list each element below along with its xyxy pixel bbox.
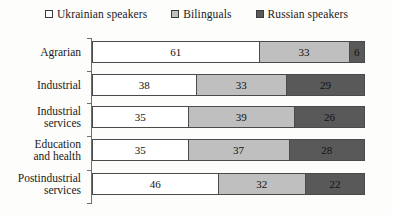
bar-industrial-services: 35 39 26 <box>92 106 365 128</box>
category-label-line1: Industrial <box>0 79 81 92</box>
stacked-bar-chart: Ukrainian speakers Bilinguals Russian sp… <box>0 0 393 215</box>
bar-segment-ukrainian: 61 <box>92 41 259 63</box>
legend-label-bilinguals: Bilinguals <box>183 8 231 20</box>
legend-swatch-bilinguals-icon <box>171 10 179 18</box>
bar-segment-russian: 22 <box>305 173 365 195</box>
category-label-industrial: Industrial <box>0 79 86 92</box>
bar-rows: Agrarian Industrial Industrial services <box>0 33 393 211</box>
bar-segment-bilinguals: 32 <box>218 173 305 195</box>
category-label-education-and-health: Education and health <box>0 138 86 163</box>
bar-segment-russian: 28 <box>289 139 365 161</box>
bar-segment-ukrainian: 38 <box>92 74 196 96</box>
bar-segment-russian: 26 <box>294 106 365 128</box>
legend-item-ukrainian-speakers: Ukrainian speakers <box>45 8 147 20</box>
bar-segment-bilinguals: 39 <box>188 106 294 128</box>
legend-swatch-ukrainian-icon <box>45 10 53 18</box>
legend-label-russian: Russian speakers <box>268 8 349 20</box>
bar-postindustrial-services: 46 32 22 <box>92 173 365 195</box>
category-label-line2: and health <box>0 150 81 163</box>
category-label-line2: services <box>0 184 81 197</box>
category-label-postindustrial-services: Postindustrial services <box>0 172 86 197</box>
bar-segment-ukrainian: 35 <box>92 106 188 128</box>
legend-item-bilinguals: Bilinguals <box>171 8 231 20</box>
bar-segment-russian: 29 <box>286 74 365 96</box>
bar-education-and-health: 35 37 28 <box>92 139 365 161</box>
bar-segment-russian: 6 <box>349 41 365 63</box>
category-label-line1: Agrarian <box>0 46 81 59</box>
chart-legend: Ukrainian speakers Bilinguals Russian sp… <box>0 8 393 20</box>
bar-segment-bilinguals: 37 <box>188 139 289 161</box>
legend-label-ukrainian: Ukrainian speakers <box>57 8 147 20</box>
category-label-line2: services <box>0 117 81 130</box>
bar-industrial: 38 33 29 <box>92 74 365 96</box>
category-label-agrarian: Agrarian <box>0 46 86 59</box>
plot-area: Agrarian Industrial Industrial services <box>0 33 393 211</box>
legend-item-russian-speakers: Russian speakers <box>256 8 349 20</box>
category-label-line1: Education <box>0 138 81 151</box>
bar-segment-bilinguals: 33 <box>196 74 286 96</box>
bar-agrarian: 61 33 6 <box>92 41 365 63</box>
category-label-industrial-services: Industrial services <box>0 105 86 130</box>
bar-segment-ukrainian: 35 <box>92 139 188 161</box>
category-label-line1: Postindustrial <box>0 172 81 185</box>
category-label-line1: Industrial <box>0 105 81 118</box>
legend-swatch-russian-icon <box>256 10 264 18</box>
bar-segment-ukrainian: 46 <box>92 173 218 195</box>
bar-segment-bilinguals: 33 <box>259 41 349 63</box>
